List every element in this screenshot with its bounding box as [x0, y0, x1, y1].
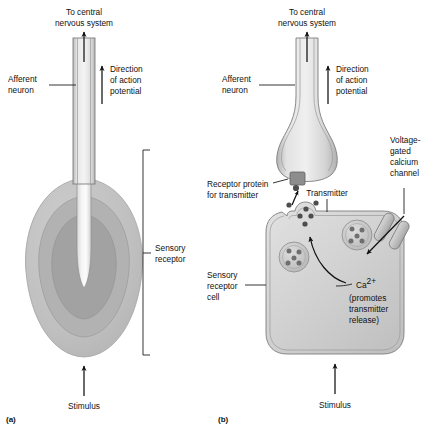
- calcium-ion-charge: 2+: [367, 276, 377, 286]
- receptor-cell-label-line2-b: receptor: [207, 281, 238, 291]
- channel-label-line4-b: channel: [390, 168, 419, 178]
- receptor-protein-block-b: [290, 172, 305, 185]
- channel-label-line1-b: Voltage-: [390, 135, 421, 145]
- panel-label-a: (a): [6, 415, 16, 424]
- channel-label-line3-b: calcium: [390, 157, 418, 167]
- stimulus-label-b: Stimulus: [319, 400, 351, 410]
- calcium-note-line3-b: release): [349, 315, 379, 325]
- transmitter-to-receptor-arrow-b: [292, 191, 298, 205]
- afferent-label-line2-a: neuron: [8, 85, 34, 95]
- figure-root: To central nervous system Afferent neuro…: [0, 0, 434, 428]
- transmitter-label-b: Transmitter: [306, 188, 348, 198]
- calcium-note-line1-b: (promotes: [349, 293, 386, 303]
- afferent-label-line1-a: Afferent: [8, 74, 38, 84]
- receptor-cell-label-line1-b: Sensory: [207, 270, 238, 280]
- panel-b-group: To central nervous system Afferent neuro…: [207, 7, 421, 424]
- cns-label-line2-b: nervous system: [278, 18, 336, 28]
- afferent-label-line1-b: Afferent: [222, 74, 252, 84]
- receptor-protein-label-line2-b: for transmitter: [207, 190, 258, 200]
- vesicle-right-b: [342, 220, 372, 250]
- sensory-receptor-bracket-a: [143, 150, 150, 355]
- transmitter-dot-2: [313, 200, 318, 205]
- panel-label-b: (b): [218, 415, 229, 424]
- sensory-receptor-label-line2-a: receptor: [155, 254, 186, 264]
- cns-label-line2-a: nervous system: [55, 18, 113, 28]
- sensory-receptor-diagram: To central nervous system Afferent neuro…: [0, 0, 434, 428]
- calcium-ion-symbol: Ca: [356, 280, 367, 290]
- cns-label-line1-b: To central: [289, 7, 325, 17]
- receptor-bound-transmitter-b: [293, 185, 299, 191]
- sensory-receptor-label-line1-a: Sensory: [155, 243, 186, 253]
- panel-a-group: To central nervous system Afferent neuro…: [6, 7, 186, 424]
- direction-label-line1-b: Direction: [336, 64, 369, 74]
- receptor-protein-b: [290, 172, 305, 191]
- cns-label-line1-a: To central: [66, 7, 102, 17]
- receptor-protein-label-line1-b: Receptor protein: [207, 179, 269, 189]
- transmitter-dot-1: [286, 202, 291, 207]
- receptor-cell-label-line3-b: cell: [207, 292, 220, 302]
- direction-label-line2-b: of action: [336, 75, 368, 85]
- calcium-note-line2-b: transmitter: [349, 304, 388, 314]
- vesicle-left-b: [279, 242, 309, 272]
- direction-label-line3-a: potential: [110, 86, 142, 96]
- direction-label-line3-b: potential: [336, 86, 368, 96]
- stimulus-label-a: Stimulus: [68, 401, 100, 411]
- direction-label-line2-a: of action: [110, 75, 142, 85]
- receptor-protein-leader-b: [273, 179, 288, 183]
- channel-label-line2-b: gated: [390, 146, 411, 156]
- afferent-label-line2-b: neuron: [222, 85, 248, 95]
- direction-label-line1-a: Direction: [110, 64, 143, 74]
